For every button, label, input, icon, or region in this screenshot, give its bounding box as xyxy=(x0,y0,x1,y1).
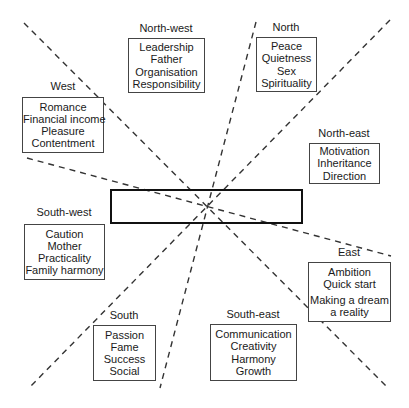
west-item: Pleasure xyxy=(23,125,103,137)
west-box: Romance Financial income Pleasure Conten… xyxy=(22,97,104,153)
south-west-item: Mother xyxy=(25,240,104,252)
south-west-label: South-west xyxy=(36,206,91,218)
north-item: Quietness xyxy=(257,52,316,64)
south-west-box: Caution Mother Practicality Family harmo… xyxy=(24,224,105,280)
north-west-item: Responsibility xyxy=(129,78,204,90)
east-item: Ambition xyxy=(309,266,390,278)
south-east-item: Creativity xyxy=(211,340,296,352)
south-box: Passion Fame Success Social xyxy=(93,325,156,381)
south-item: Social xyxy=(94,365,155,377)
south-east-label: South-east xyxy=(226,308,279,320)
west-label: West xyxy=(51,80,76,92)
south-item: Fame xyxy=(94,341,155,353)
north-west-label: North-west xyxy=(139,22,192,34)
north-east-item: Inheritance xyxy=(310,157,379,169)
north-east-item: Direction xyxy=(310,170,379,182)
center-rectangle xyxy=(110,189,303,224)
south-east-item: Growth xyxy=(211,365,296,377)
north-east-box: Motivation Inheritance Direction xyxy=(309,143,380,184)
north-west-box: Leadership Father Organisation Responsib… xyxy=(128,38,205,93)
north-label: North xyxy=(273,21,300,33)
west-item: Contentment xyxy=(23,137,103,149)
west-item: Financial income xyxy=(23,113,103,125)
west-item: Romance xyxy=(23,101,103,113)
south-item: Success xyxy=(94,353,155,365)
east-box: Ambition Quick start Making a dream a re… xyxy=(308,262,391,322)
north-item: Sex xyxy=(257,65,316,77)
north-east-item: Motivation xyxy=(310,145,379,157)
south-west-item: Caution xyxy=(25,228,104,240)
north-item: Peace xyxy=(257,40,316,52)
south-east-box: Communication Creativity Harmony Growth xyxy=(210,324,297,381)
north-west-item: Organisation xyxy=(129,66,204,78)
north-west-item: Leadership xyxy=(129,41,204,53)
south-label: South xyxy=(110,309,139,321)
east-item: Quick start xyxy=(309,278,390,290)
south-item: Passion xyxy=(94,329,155,341)
south-east-item: Communication xyxy=(211,328,296,340)
east-item: Making a dream xyxy=(309,294,390,306)
south-west-item: Family harmony xyxy=(25,264,104,276)
south-west-item: Practicality xyxy=(25,252,104,264)
east-label: East xyxy=(338,246,360,258)
north-east-label: North-east xyxy=(318,127,369,139)
north-item: Spirituality xyxy=(257,77,316,89)
east-item: a reality xyxy=(309,306,390,318)
south-east-item: Harmony xyxy=(211,353,296,365)
north-west-item: Father xyxy=(129,53,204,65)
north-box: Peace Quietness Sex Spirituality xyxy=(256,37,317,92)
